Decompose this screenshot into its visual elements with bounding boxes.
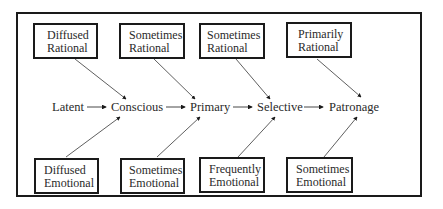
box-line: Emotional	[209, 176, 263, 189]
box-line: Emotional	[296, 176, 351, 189]
top-box-4: Primarily Rational	[286, 22, 352, 58]
arrow-top-4	[317, 59, 361, 97]
arrow-bottom-3	[238, 117, 275, 157]
arrow-bottom-2	[157, 117, 200, 157]
arrow-bottom-4	[324, 117, 357, 157]
stage-conscious: Conscious	[111, 100, 163, 115]
top-box-2: Sometimes Rational	[119, 23, 185, 59]
bottom-box-1: Diffused Emotional	[34, 158, 99, 194]
stage-selective: Selective	[257, 100, 303, 115]
box-line: Rational	[207, 42, 263, 55]
box-line: Emotional	[44, 177, 97, 190]
box-line: Rational	[129, 42, 183, 55]
arrow-bottom-1	[66, 117, 120, 157]
box-line: Emotional	[129, 177, 183, 190]
box-line: Rational	[298, 41, 350, 54]
arrow-top-3	[236, 59, 270, 99]
box-line: Rational	[47, 42, 96, 55]
arrow-top-2	[154, 59, 195, 99]
stage-latent: Latent	[52, 100, 84, 115]
top-box-1: Diffused Rational	[33, 23, 98, 59]
arrow-top-1	[75, 59, 126, 99]
top-box-3: Sometimes Rational	[199, 23, 265, 59]
stage-patronage: Patronage	[329, 100, 379, 115]
bottom-box-3: Frequently Emotional	[199, 157, 265, 193]
bottom-box-2: Sometimes Emotional	[120, 158, 185, 194]
stage-primary: Primary	[190, 100, 230, 115]
bottom-box-4: Sometimes Emotional	[286, 157, 353, 193]
